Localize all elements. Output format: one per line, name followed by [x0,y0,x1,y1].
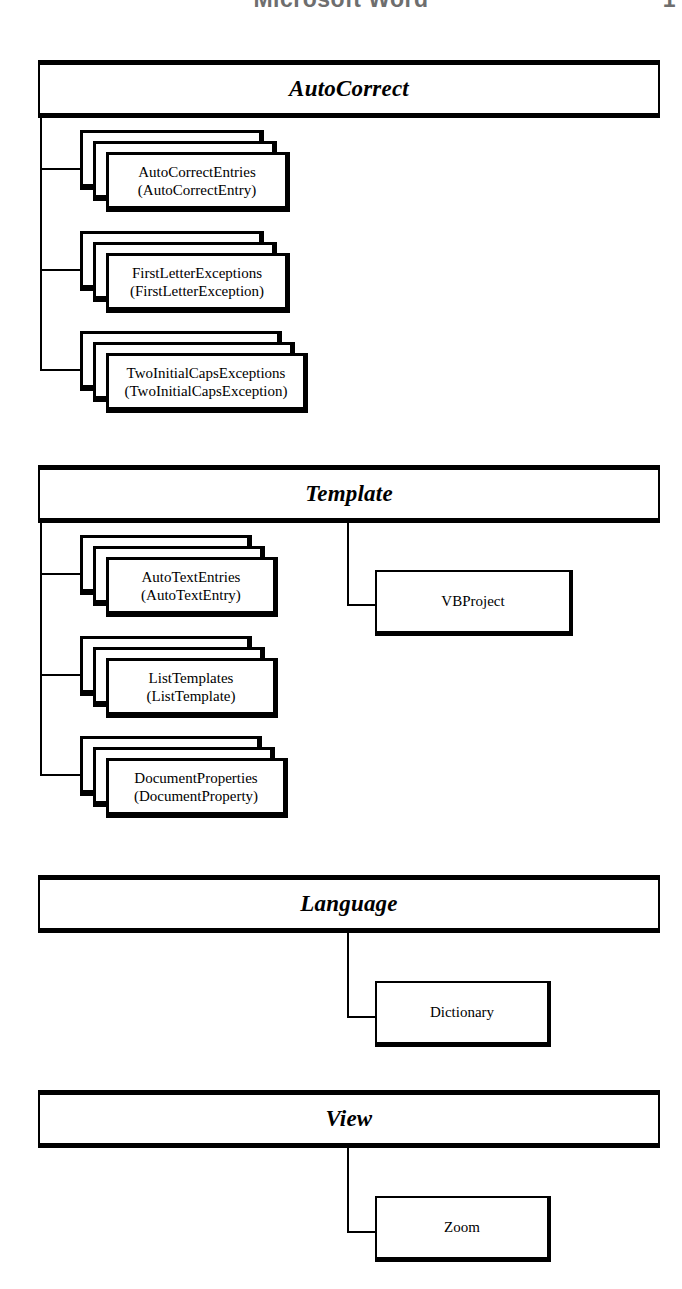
connector-trunk-autocorrect [40,118,42,370]
collection-label: TwoInitialCapsExceptions (TwoInitialCaps… [120,364,291,400]
stack-sheet-front: AutoCorrectEntries (AutoCorrectEntry) [106,152,290,212]
stack-sheet-front: FirstLetterExceptions (FirstLetterExcept… [106,253,290,313]
connector-branch-autocorrect-1 [40,168,82,170]
connector-branch-vbproject [347,604,377,606]
object-box-zoom[interactable]: Zoom [375,1196,551,1262]
stack-sheet-front: ListTemplates (ListTemplate) [106,658,278,718]
collection-label: AutoCorrectEntries (AutoCorrectEntry) [134,163,260,199]
connector-branch-template-2 [40,674,82,676]
collection-plural-name: TwoInitialCapsExceptions [127,365,286,381]
connector-branch-autocorrect-2 [40,269,82,271]
connector-trunk-template [40,523,42,775]
collection-label: AutoTextEntries (AutoTextEntry) [137,568,245,604]
object-box-dictionary[interactable]: Dictionary [375,981,551,1047]
connector-trunk-language [347,933,349,1018]
header-label-language: Language [300,891,397,917]
collection-plural-name: ListTemplates [149,670,234,686]
collection-plural-name: AutoTextEntries [142,569,241,585]
header-box-view[interactable]: View [38,1090,660,1148]
connector-branch-dictionary [347,1016,377,1018]
connector-branch-template-1 [40,573,82,575]
connector-branch-template-3 [40,774,82,776]
stack-sheet-front: AutoTextEntries (AutoTextEntry) [106,557,278,617]
header-label-template: Template [305,481,393,507]
connector-trunk-template-right [347,523,349,606]
collection-singular-name: (ListTemplate) [147,687,236,705]
object-model-diagram: AutoCorrect AutoCorrectEntries (AutoCorr… [0,0,682,1289]
collection-label: ListTemplates (ListTemplate) [143,669,240,705]
stack-sheet-front: DocumentProperties (DocumentProperty) [106,758,288,818]
collection-label: FirstLetterExceptions (FirstLetterExcept… [126,264,268,300]
header-box-template[interactable]: Template [38,465,660,523]
stack-sheet-front: TwoInitialCapsExceptions (TwoInitialCaps… [106,353,308,413]
collection-label: DocumentProperties (DocumentProperty) [130,769,262,805]
object-label-zoom: Zoom [444,1219,480,1237]
collection-plural-name: DocumentProperties [134,770,257,786]
object-box-vbproject[interactable]: VBProject [375,570,573,636]
connector-branch-autocorrect-3 [40,369,82,371]
collection-plural-name: AutoCorrectEntries [138,164,255,180]
header-label-autocorrect: AutoCorrect [289,76,409,102]
collection-singular-name: (FirstLetterException) [130,282,264,300]
header-box-autocorrect[interactable]: AutoCorrect [38,60,660,118]
collection-singular-name: (AutoCorrectEntry) [138,181,256,199]
collection-singular-name: (DocumentProperty) [134,787,258,805]
collection-plural-name: FirstLetterExceptions [132,265,262,281]
object-label-dictionary: Dictionary [430,1004,494,1022]
header-box-language[interactable]: Language [38,875,660,933]
connector-trunk-view [347,1148,349,1233]
header-label-view: View [326,1106,373,1132]
collection-singular-name: (AutoTextEntry) [141,586,241,604]
connector-branch-zoom [347,1231,377,1233]
object-label-vbproject: VBProject [441,593,504,611]
collection-singular-name: (TwoInitialCapsException) [124,382,287,400]
